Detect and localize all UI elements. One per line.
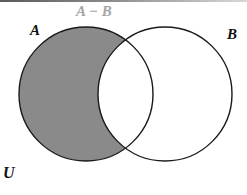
venn-diagram-canvas: A − B A B U [0,0,247,195]
universe-label: U [3,165,15,181]
set-b-label: B [227,27,237,42]
set-a-label: A [30,23,40,38]
difference-title: A − B [76,4,112,19]
